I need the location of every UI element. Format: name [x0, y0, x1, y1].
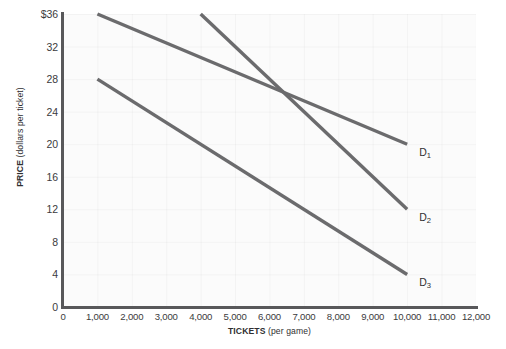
- curve-label-text: D: [419, 146, 427, 158]
- x-axis-tick-labels: 01,0002,0003,0004,0005,0006,0007,0008,00…: [0, 311, 506, 327]
- x-axis-title-bold: TICKETS: [228, 326, 265, 336]
- y-axis-title-bold: PRICE: [15, 160, 25, 187]
- y-axis-title-rest: (dollars per ticket): [15, 87, 25, 157]
- y-tick-label: 8: [18, 236, 58, 248]
- curve-label-subscript: 1: [427, 151, 431, 160]
- curve-label-text: D: [419, 211, 427, 223]
- curve-label-subscript: 3: [427, 281, 431, 290]
- plot-area: [63, 14, 476, 307]
- x-tick-label: 12,000: [446, 311, 506, 322]
- x-axis-line: [61, 306, 478, 309]
- y-tick-label: $36: [18, 8, 58, 20]
- y-tick-label: 4: [18, 268, 58, 280]
- y-axis-title: PRICE (dollars per ticket): [15, 57, 25, 217]
- y-axis-line: [61, 12, 64, 309]
- demand-curve-chart: $36322824201612840 01,0002,0003,0004,000…: [0, 0, 506, 349]
- curve-label-d3: D3: [419, 276, 431, 288]
- curve-label-subscript: 2: [427, 216, 431, 225]
- curve-label-d2: D2: [419, 211, 431, 223]
- x-axis-title-rest: (per game): [268, 326, 311, 336]
- curve-label-text: D: [419, 276, 427, 288]
- x-axis-title: TICKETS (per game): [63, 326, 476, 336]
- y-tick-label: 32: [18, 41, 58, 53]
- curve-label-d1: D1: [419, 146, 431, 158]
